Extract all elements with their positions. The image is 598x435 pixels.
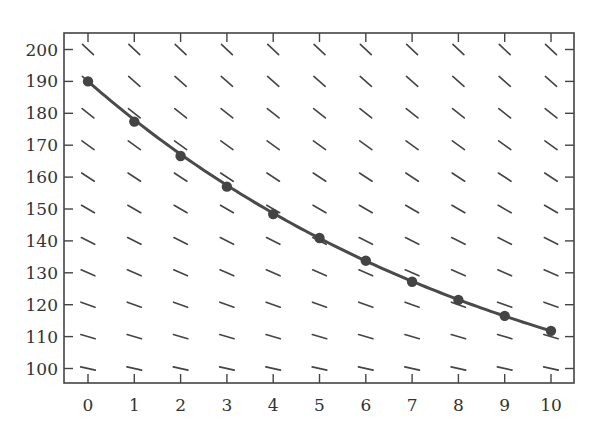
slope-segment [173,335,187,339]
slope-segment [82,141,94,150]
y-tick-label: 140 [26,231,58,251]
slope-segment [314,44,325,54]
slope-field-chart: 012345678910 100110120130140150160170180… [0,0,598,435]
x-tick-label: 9 [499,395,510,415]
slope-segment [545,76,556,86]
slope-segment [128,141,140,150]
y-tick-label: 170 [26,135,58,155]
y-tick-label: 100 [26,359,58,379]
slope-segment [313,141,325,150]
slope-segment [451,367,466,370]
x-tick-label: 1 [129,395,140,415]
y-tick-label: 110 [26,327,58,347]
slope-segment [405,270,419,276]
slope-segment [220,302,234,307]
slope-segment [266,367,281,370]
slope-segment [405,367,420,370]
solution-curve [88,81,551,331]
slope-segment [359,335,373,339]
slope-segment [545,109,557,118]
slope-segment [81,302,95,307]
slope-segment [405,302,419,307]
slope-segment [314,109,326,118]
slope-segment [221,173,234,181]
slope-segment [313,205,326,213]
slope-segment [498,173,511,181]
y-tick-label: 150 [26,199,58,219]
slope-segment [544,367,559,370]
slope-segment [266,302,280,307]
slope-segment [499,141,511,150]
slope-segment [452,141,464,150]
slope-segment [359,205,372,213]
slope-segment [545,141,557,150]
x-tick-label: 10 [540,395,562,415]
y-tick-label: 190 [26,71,58,91]
slope-segment [313,173,326,181]
slope-segment [220,367,235,370]
slope-segment [81,237,94,244]
slope-segment [220,270,234,276]
slope-segment [268,76,279,86]
x-tick-label: 0 [83,395,94,415]
slope-segment [360,141,372,150]
slope-segment [406,109,418,118]
data-point [129,116,139,126]
data-points [83,76,556,336]
slope-segment [81,335,95,339]
slope-segment [174,205,187,213]
slope-segment [221,141,233,150]
x-tick-label: 3 [221,395,232,415]
y-tick-label: 130 [26,263,58,283]
slope-segment [81,367,96,370]
slope-segment [83,44,94,54]
slope-segment [173,367,188,370]
slope-segment [129,76,140,86]
y-tick-label: 160 [26,167,58,187]
slope-segment [175,109,187,118]
slope-segment [81,270,95,276]
y-axis: 100110120130140150160170180190200 [26,40,574,379]
slope-segment [174,302,188,307]
data-point [175,151,185,161]
slope-segment [358,367,373,370]
y-tick-label: 180 [26,103,58,123]
data-point [546,326,556,336]
slope-segment [266,335,280,339]
slope-segment [499,109,511,118]
slope-segment [128,173,141,181]
slope-segment [82,205,95,213]
data-point [500,311,510,321]
slope-segment [220,205,233,213]
slope-segment [452,237,465,244]
slope-segment [127,270,141,276]
slope-segment [360,76,371,86]
slope-segment [498,302,512,307]
slope-segment [406,141,418,150]
slope-segment [544,270,558,276]
data-point [361,255,371,265]
slope-segment [497,367,512,370]
slope-segment [127,367,142,370]
slope-segment [405,237,418,244]
slope-segment [451,335,465,339]
data-point [268,209,278,219]
x-tick-label: 6 [360,395,371,415]
x-axis: 012345678910 [83,33,562,415]
slope-segment [497,335,511,339]
data-point [83,76,93,86]
slope-segment [406,173,419,181]
slope-segment [127,302,141,307]
slope-segment [406,205,419,213]
slope-segment [544,237,557,244]
y-tick-label: 200 [26,40,58,60]
slope-segment [405,335,419,339]
slope-segment [221,109,233,118]
slope-segment [129,44,140,54]
slope-segment [174,173,187,181]
slope-segment [268,44,279,54]
slope-segment [82,109,94,118]
slope-segment [359,237,372,244]
x-tick-label: 5 [314,395,325,415]
data-point [222,181,232,191]
